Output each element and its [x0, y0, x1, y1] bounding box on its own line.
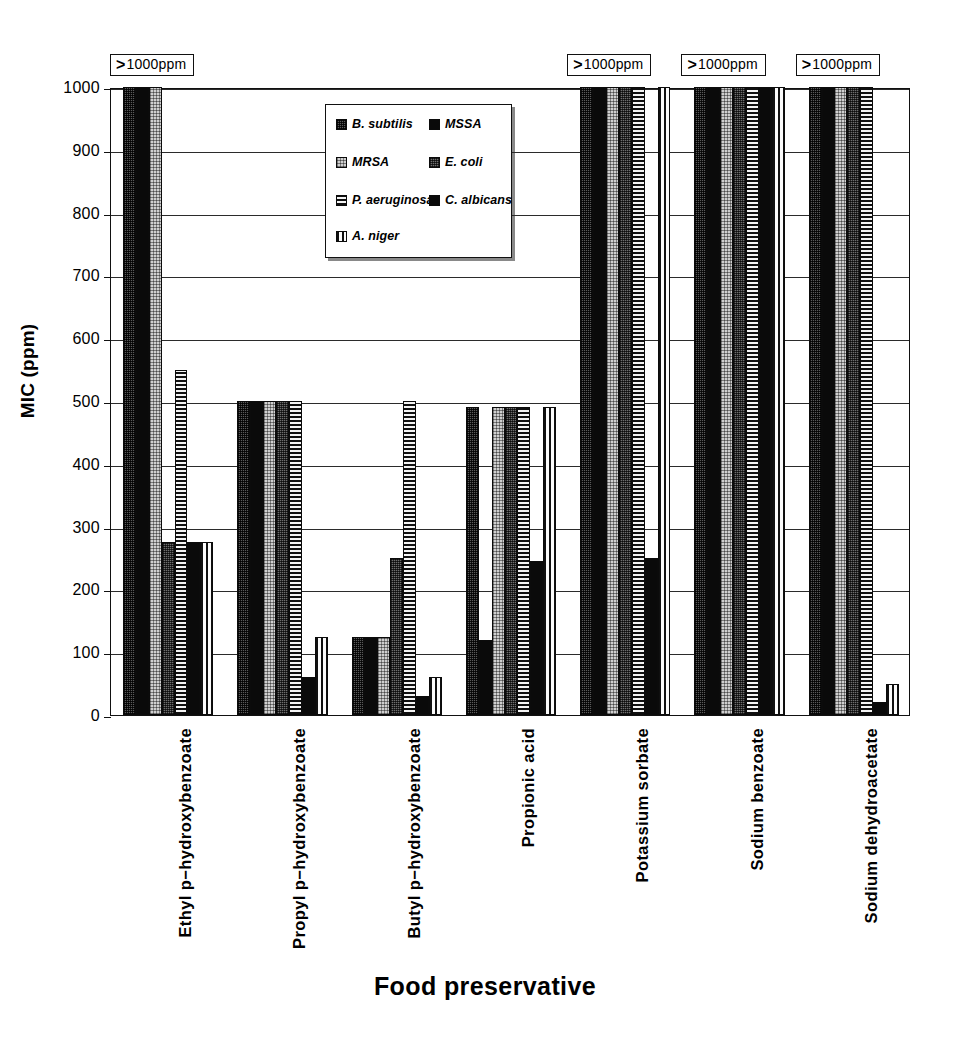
greater-than-icon: >: [573, 56, 583, 73]
bar: [187, 542, 200, 715]
y-tick-label: 400: [42, 457, 100, 473]
greater-than-icon: >: [116, 56, 126, 73]
y-tickmark: [104, 215, 111, 216]
bar: [200, 542, 213, 715]
legend-item-mssa: MSSA: [429, 117, 482, 131]
legend-item-e-coli: E. coli: [429, 155, 483, 169]
bar: [694, 87, 707, 715]
bar: [543, 407, 556, 715]
bar: [772, 87, 785, 715]
bar-group: [580, 89, 670, 715]
y-tick-label: 800: [42, 206, 100, 222]
legend-swatch-icon: [336, 119, 347, 130]
y-tick-label: 200: [42, 582, 100, 598]
x-category-label: Ethyl p−hydroxybenzoate: [176, 728, 195, 938]
overflow-annotation: >1000ppm: [567, 54, 651, 76]
bar: [123, 87, 136, 715]
bar: [720, 87, 733, 715]
bar: [175, 370, 188, 715]
bar: [263, 401, 276, 715]
x-category-label: Propyl p−hydroxybenzoate: [290, 728, 309, 949]
bar-group: [123, 89, 213, 715]
y-tick-label: 900: [42, 143, 100, 159]
bar: [645, 558, 658, 715]
bar: [847, 87, 860, 715]
y-tickmark: [104, 654, 111, 655]
bar: [580, 87, 593, 715]
y-tickmark: [104, 340, 111, 341]
legend-item-c-albicans: C. albicans: [429, 193, 512, 207]
bar: [377, 637, 390, 716]
bar: [809, 87, 822, 715]
y-tickmark: [104, 152, 111, 153]
x-category-label: Butyl p−hydroxybenzoate: [405, 728, 424, 938]
bar: [237, 401, 250, 715]
y-axis-title: MIC (ppm): [17, 291, 39, 451]
legend-label: E. coli: [445, 155, 483, 169]
bar: [479, 640, 492, 715]
bar: [505, 407, 518, 715]
y-tick-label: 500: [42, 394, 100, 410]
bar: [403, 401, 416, 715]
x-category-label: Sodium dehydroacetate: [862, 728, 881, 923]
overflow-annotation: >1000ppm: [110, 54, 194, 76]
bar: [149, 87, 162, 715]
bar: [707, 87, 720, 715]
bar-group: [237, 89, 327, 715]
bar: [390, 558, 403, 715]
y-tick-label: 1000: [42, 80, 100, 96]
bar: [834, 87, 847, 715]
y-tick-label: 700: [42, 268, 100, 284]
bar: [466, 407, 479, 715]
bar-group: [809, 89, 899, 715]
greater-than-icon: >: [802, 56, 812, 73]
bar: [619, 87, 632, 715]
bar: [606, 87, 619, 715]
bar: [250, 401, 263, 715]
bar: [530, 561, 543, 715]
y-tick-label: 300: [42, 520, 100, 536]
bar: [733, 87, 746, 715]
legend-swatch-icon: [429, 157, 440, 168]
overflow-annotation-text: 1000ppm: [584, 56, 644, 72]
overflow-annotation-text: 1000ppm: [812, 56, 872, 72]
legend-swatch-icon: [429, 195, 440, 206]
legend-swatch-icon: [336, 195, 347, 206]
legend-item-mrsa: MRSA: [336, 155, 389, 169]
greater-than-icon: >: [687, 56, 697, 73]
legend-label: B. subtilis: [352, 117, 413, 131]
bar: [886, 684, 899, 715]
overflow-annotation-text: 1000ppm: [127, 56, 187, 72]
y-tickmark: [104, 89, 111, 90]
bar: [632, 87, 645, 715]
bar: [593, 87, 606, 715]
legend-swatch-icon: [336, 231, 347, 242]
bar: [302, 677, 315, 715]
x-category-label: Propionic acid: [519, 728, 538, 847]
legend-label: MSSA: [445, 117, 482, 131]
mic-bar-chart: MIC (ppm) 010020030040050060070080090010…: [0, 0, 970, 1050]
bar: [315, 637, 328, 716]
overflow-annotation-text: 1000ppm: [698, 56, 758, 72]
legend-label: P. aeruginosa: [352, 193, 434, 207]
legend-swatch-icon: [429, 119, 440, 130]
bar: [429, 677, 442, 715]
y-tickmark: [104, 717, 111, 718]
y-tick-label: 100: [42, 645, 100, 661]
bar: [860, 87, 873, 715]
bar: [136, 87, 149, 715]
bar: [822, 87, 835, 715]
bar: [162, 542, 175, 715]
legend-item-b-subtilis: B. subtilis: [336, 117, 413, 131]
y-tickmark: [104, 466, 111, 467]
bar: [746, 87, 759, 715]
bar: [289, 401, 302, 715]
y-tickmark: [104, 529, 111, 530]
bar: [873, 702, 886, 715]
legend-label: MRSA: [352, 155, 389, 169]
legend-label: A. niger: [352, 229, 399, 243]
y-tick-label: 600: [42, 331, 100, 347]
bar: [364, 637, 377, 716]
bar: [492, 407, 505, 715]
legend: B. subtilisMSSAMRSAE. coliP. aeruginosaC…: [325, 104, 512, 258]
